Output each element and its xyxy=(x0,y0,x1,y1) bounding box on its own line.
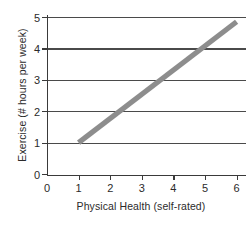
y-tick-3 xyxy=(42,80,47,81)
x-tick-2 xyxy=(110,176,111,180)
chart-container: 5 4 3 2 1 0 0 1 2 3 4 5 6 Exercise (# ho… xyxy=(0,0,251,226)
x-tick-label-3: 3 xyxy=(134,182,150,194)
gridline-y-5 xyxy=(47,17,246,18)
gridline-y-4 xyxy=(47,48,246,49)
x-tick-3 xyxy=(142,176,143,180)
x-axis-line xyxy=(47,175,246,176)
y-tick-0 xyxy=(42,174,47,175)
x-axis-title: Physical Health (self-rated) xyxy=(36,200,246,212)
y-axis-title: Exercise (# hours per week) xyxy=(14,5,30,185)
x-tick-label-0: 0 xyxy=(39,182,55,194)
x-tick-label-4: 4 xyxy=(165,182,181,194)
x-tick-6 xyxy=(237,176,238,180)
x-tick-label-1: 1 xyxy=(71,182,87,194)
x-tick-1 xyxy=(79,176,80,180)
gridline-y-2 xyxy=(47,111,246,112)
y-axis-line xyxy=(47,15,48,176)
y-tick-4 xyxy=(42,48,47,49)
x-tick-5 xyxy=(205,176,206,180)
x-tick-4 xyxy=(173,176,174,180)
x-tick-label-5: 5 xyxy=(197,182,213,194)
x-tick-label-2: 2 xyxy=(102,182,118,194)
y-tick-5 xyxy=(42,17,47,18)
x-tick-label-6: 6 xyxy=(229,182,245,194)
gridline-y-1 xyxy=(47,143,246,144)
y-tick-2 xyxy=(42,111,47,112)
y-tick-1 xyxy=(42,143,47,144)
gridline-y-3 xyxy=(47,80,246,81)
